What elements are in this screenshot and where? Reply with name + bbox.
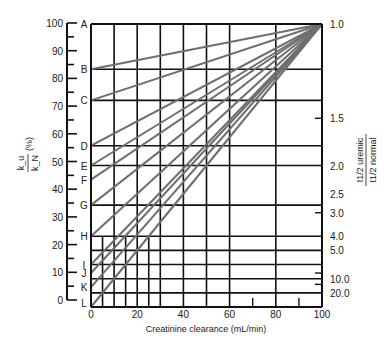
- y-tick-label: 60: [52, 129, 64, 140]
- y2-tick-label: 2.5: [330, 189, 344, 200]
- group-label-L: L: [81, 298, 87, 309]
- group-label-K: K: [81, 282, 88, 293]
- svg-text:Creatinine clearance (mL/min): Creatinine clearance (mL/min): [146, 324, 267, 334]
- y2label-numerator: t1/2 uremic: [355, 137, 365, 182]
- y2-tick-label: 10.0: [330, 274, 350, 285]
- y-tick-label: 80: [52, 73, 64, 84]
- right-axis-title: t1/2 uremic t1/2 normal: [355, 134, 378, 186]
- y-tick-label: 50: [52, 157, 64, 168]
- left-y-axis: 0102030405060708090100: [46, 18, 77, 306]
- y-tick-label: 0: [57, 295, 63, 306]
- right-y-axis: 1.01.52.02.53.04.05.010.020.0: [315, 19, 350, 299]
- x-tick-label: 80: [270, 309, 282, 320]
- y2-tick-label: 2.0: [330, 161, 344, 172]
- x-tick-label: 100: [314, 309, 331, 320]
- chart-canvas: 0102030405060708090100 1.01.52.02.53.04.…: [0, 0, 388, 339]
- group-label-A: A: [81, 19, 88, 30]
- y2-tick-label: 4.0: [330, 231, 344, 242]
- y-tick-label: 100: [46, 18, 63, 29]
- y-tick-label: 10: [52, 267, 64, 278]
- y-tick-label: 40: [52, 184, 64, 195]
- ylabel-unit: (%): [24, 137, 34, 151]
- y-tick-label: 90: [52, 46, 64, 57]
- y2-tick-label: 1.5: [330, 113, 344, 124]
- group-label-F: F: [81, 175, 87, 186]
- y2-tick-label: 1.0: [330, 19, 344, 30]
- y2label-denominator: t1/2 normal: [368, 137, 378, 182]
- group-labels: ABCDEFGHIJKL: [80, 19, 88, 309]
- left-axis-title: k_u k_N (%): [16, 137, 40, 172]
- group-label-G: G: [80, 200, 88, 211]
- y2-tick-label: 3.0: [330, 208, 344, 219]
- x-tick-label: 60: [224, 309, 236, 320]
- ylabel-denominator: k_N: [30, 155, 40, 171]
- x-tick-label: 20: [132, 309, 144, 320]
- y-tick-label: 30: [52, 212, 64, 223]
- x-axis: 020406080100: [88, 309, 331, 320]
- y-tick-label: 70: [52, 101, 64, 112]
- group-label-H: H: [80, 231, 87, 242]
- nomogram-chart: 0102030405060708090100 1.01.52.02.53.04.…: [0, 0, 388, 339]
- y-tick-label: 20: [52, 240, 64, 251]
- group-label-C: C: [80, 95, 87, 106]
- group-label-D: D: [80, 141, 87, 152]
- y2-tick-label: 5.0: [330, 245, 344, 256]
- x-axis-title: Creatinine clearance (mL/min): [146, 324, 267, 334]
- y2-tick-label: 20.0: [330, 288, 350, 299]
- x-tick-label: 40: [178, 309, 190, 320]
- group-label-J: J: [82, 268, 87, 279]
- group-label-B: B: [81, 64, 88, 75]
- x-tick-label: 0: [88, 309, 94, 320]
- group-label-E: E: [81, 161, 88, 172]
- ylabel-numerator: k_u: [16, 156, 26, 171]
